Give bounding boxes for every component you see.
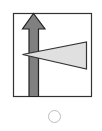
figure-image [0,0,102,100]
answer-option[interactable] [0,0,102,131]
option-radio-button[interactable] [48,110,61,123]
